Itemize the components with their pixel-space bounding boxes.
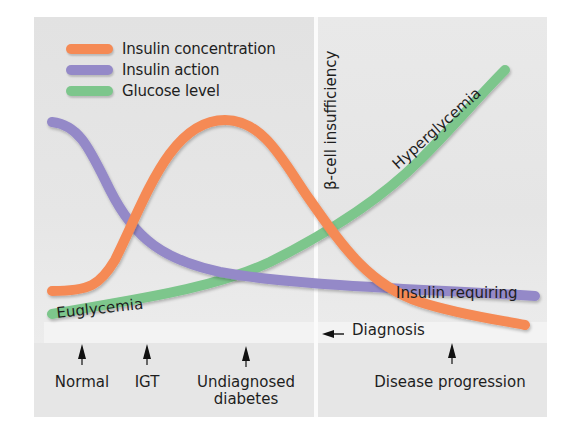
stage-normal: Normal: [50, 374, 114, 391]
diagnosis-marker: Diagnosis: [322, 321, 425, 339]
stage-label-line2: diabetes: [190, 391, 302, 408]
legend: Insulin concentration Insulin action Glu…: [66, 38, 276, 101]
stage-label: Disease progression: [374, 373, 525, 391]
stage-label-line1: Undiagnosed: [190, 374, 302, 391]
legend-label: Insulin concentration: [122, 40, 276, 58]
euglycemia-label: Euglycemia: [56, 295, 144, 322]
arrow-left-icon: [322, 325, 344, 335]
beta-cell-insufficiency-text: β-cell insufficiency: [322, 51, 340, 190]
legend-item-glucose-level: Glucose level: [66, 80, 276, 101]
glucose-level-swatch: [66, 86, 113, 96]
legend-label: Insulin action: [122, 61, 219, 79]
stage-label: IGT: [135, 373, 160, 391]
stage-label: Normal: [55, 373, 109, 391]
legend-item-insulin-action: Insulin action: [66, 59, 276, 80]
arrow-up-icon: [143, 344, 151, 365]
legend-item-insulin-concentration: Insulin concentration: [66, 38, 276, 59]
stage-disease-progression: Disease progression: [362, 374, 538, 391]
arrow-up-icon: [242, 346, 250, 367]
arrow-up-icon: [78, 344, 86, 365]
diagnosis-label: Diagnosis: [352, 321, 425, 339]
insulin-action-curve: [52, 122, 535, 296]
insulin-action-swatch: [66, 65, 113, 75]
insulin-requiring-label: Insulin requiring: [396, 284, 518, 302]
stage-igt: IGT: [127, 374, 167, 391]
arrow-up-icon: [448, 343, 456, 364]
hyperglycemia-label: Hyperglycemia: [389, 84, 485, 173]
beta-cell-insufficiency-label: β-cell insufficiency: [318, 30, 340, 190]
stage-undiagnosed-diabetes: Undiagnosed diabetes: [190, 374, 302, 408]
insulin-concentration-swatch: [66, 44, 113, 54]
legend-label: Glucose level: [122, 82, 220, 100]
